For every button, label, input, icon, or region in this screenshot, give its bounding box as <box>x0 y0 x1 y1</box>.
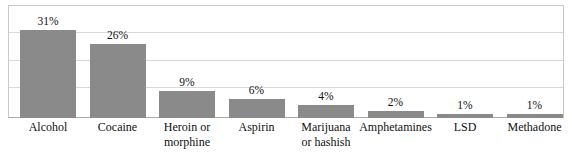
category-label-alcohol: Alcohol <box>10 120 86 135</box>
category-label-line-2: or hashish <box>288 135 364 150</box>
category-label-line-1: Marijuana <box>301 120 350 134</box>
bar-group-methadone[interactable]: 1% <box>503 5 572 118</box>
bar-group-alcohol[interactable]: 31% <box>16 5 86 118</box>
bar-value-label: 9% <box>155 76 219 89</box>
bar-value-label: 1% <box>433 99 497 112</box>
bar-value-label: 31% <box>16 15 80 28</box>
bar-group-lsd[interactable]: 1% <box>433 5 503 118</box>
category-label-line-1: Heroin or <box>164 120 210 134</box>
category-label-heroin-or-morphine: Heroin or morphine <box>149 120 225 149</box>
category-label-line-1: Amphetamines <box>359 120 432 134</box>
category-label-amphetamines: Amphetamines <box>358 120 434 135</box>
bar-group-amphetamines[interactable]: 2% <box>364 5 434 118</box>
bar-amphetamines[interactable] <box>368 111 424 118</box>
category-label-methadone: Methadone <box>497 120 572 135</box>
bar-value-label: 2% <box>364 96 428 109</box>
bar-group-marijuana-or-hashish[interactable]: 4% <box>294 5 364 118</box>
category-labels: Alcohol Cocaine Heroin or morphine Aspir… <box>8 120 564 155</box>
bar-value-label: 4% <box>294 90 358 103</box>
category-label-cocaine: Cocaine <box>80 120 156 135</box>
category-label-line-1: LSD <box>454 120 477 134</box>
category-label-aspirin: Aspirin <box>219 120 295 135</box>
bar-aspirin[interactable] <box>229 99 285 118</box>
category-label-line-1: Methadone <box>508 120 562 134</box>
category-label-line-1: Alcohol <box>29 120 68 134</box>
category-label-line-1: Aspirin <box>239 120 275 134</box>
bar-heroin-or-morphine[interactable] <box>159 91 215 118</box>
bar-chart: 31% 26% 9% 6% 4% 2% 1% 1% <box>0 0 572 155</box>
bar-value-label: 6% <box>225 84 289 97</box>
bar-lsd[interactable] <box>437 114 493 118</box>
bar-value-label: 26% <box>86 29 150 42</box>
bar-cocaine[interactable] <box>90 44 146 118</box>
category-label-line-1: Cocaine <box>98 120 137 134</box>
bar-value-label: 1% <box>503 99 567 112</box>
category-label-lsd: LSD <box>427 120 503 135</box>
bar-marijuana-or-hashish[interactable] <box>298 105 354 118</box>
bar-group-cocaine[interactable]: 26% <box>86 5 156 118</box>
bar-methadone[interactable] <box>507 114 563 118</box>
bar-group-heroin-or-morphine[interactable]: 9% <box>155 5 225 118</box>
bars-layer: 31% 26% 9% 6% 4% 2% 1% 1% <box>8 5 564 118</box>
bar-group-aspirin[interactable]: 6% <box>225 5 295 118</box>
bar-alcohol[interactable] <box>20 30 76 118</box>
category-label-line-2: morphine <box>149 135 225 150</box>
category-label-marijuana-or-hashish: Marijuana or hashish <box>288 120 364 149</box>
